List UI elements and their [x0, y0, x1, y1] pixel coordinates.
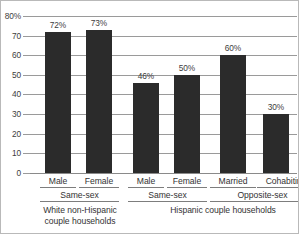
x-group-2: Opposite-sex: [210, 190, 299, 202]
chart-figure: 80% 70 60 50 40 30 20 10: [0, 0, 299, 234]
tick-stub-0: [23, 173, 30, 174]
x-category-5: Cohabiting: [257, 176, 299, 188]
x-category-0: Male: [40, 176, 76, 188]
bar-value-2: 46%: [138, 71, 154, 81]
bar-value-0: 72%: [50, 20, 66, 30]
x-axis-tier-groups: Same-sex Same-sex Opposite-sex: [30, 190, 297, 203]
gridline-80: 80%: [30, 16, 297, 17]
x-supergroup-1: Hispanic couple households: [150, 205, 296, 216]
x-category-2: Male: [128, 176, 164, 188]
ytick-label-40: 40: [12, 89, 21, 99]
ytick-label-80: 80%: [5, 11, 21, 21]
ytick-label-60: 60: [12, 50, 21, 60]
x-axis-tier-supergroups: White non-Hispanic couple households His…: [30, 205, 297, 233]
tick-stub-60: [23, 55, 30, 56]
ytick-label-0: 0: [16, 168, 21, 178]
ytick-label-30: 30: [12, 109, 21, 119]
bar-0: 72%: [45, 32, 71, 173]
bar-5: 30%: [263, 114, 289, 173]
bar-2: 46%: [133, 83, 159, 173]
tick-stub-70: [23, 36, 30, 37]
x-axis-labels: Male Female Male Female Married Cohabiti…: [30, 174, 297, 234]
bar-value-4: 60%: [225, 43, 241, 53]
tick-stub-50: [23, 75, 30, 76]
x-group-0: Same-sex: [40, 190, 119, 202]
ytick-label-50: 50: [12, 70, 21, 80]
ytick-label-70: 70: [12, 31, 21, 41]
tick-stub-20: [23, 134, 30, 135]
ytick-label-20: 20: [12, 129, 21, 139]
plot-area: 80% 70 60 50 40 30 20 10: [30, 16, 297, 173]
tick-stub-80: [23, 16, 30, 17]
bar-value-5: 30%: [268, 102, 284, 112]
x-axis-tier-categories: Male Female Male Female Married Cohabiti…: [30, 176, 297, 189]
x-group-1: Same-sex: [128, 190, 207, 202]
bar-value-1: 73%: [91, 18, 107, 28]
bar-3: 50%: [174, 75, 200, 173]
bar-value-3: 50%: [179, 63, 195, 73]
tick-stub-10: [23, 153, 30, 154]
x-supergroup-0: White non-Hispanic couple households: [34, 205, 126, 227]
x-category-4: Married: [210, 176, 256, 188]
tick-stub-30: [23, 114, 30, 115]
tick-stub-40: [23, 94, 30, 95]
ytick-label-10: 10: [12, 148, 21, 158]
bar-1: 73%: [86, 30, 112, 173]
x-category-3: Female: [167, 176, 207, 188]
bar-4: 60%: [220, 55, 246, 173]
x-category-1: Female: [79, 176, 119, 188]
